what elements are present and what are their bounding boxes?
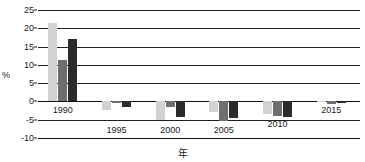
- y-tick-mark-10: [34, 64, 37, 65]
- bar-2010-series-3: [283, 101, 292, 117]
- y-tick-label-15: 15: [24, 42, 34, 52]
- gridline-25: [38, 10, 360, 11]
- bar-2015-series-1: [317, 101, 326, 102]
- y-tick-label-0: 0: [29, 96, 34, 106]
- bar-2015-series-2: [327, 101, 336, 103]
- gridline--10: [38, 138, 360, 139]
- gridline-20: [38, 28, 360, 29]
- y-tick-label-25: 25: [24, 5, 34, 15]
- y-tick-label-20: 20: [24, 23, 34, 33]
- bar-2000-series-1: [156, 101, 165, 119]
- x-tick-label-1990: 1990: [53, 105, 73, 115]
- gridline-5: [38, 83, 360, 84]
- x-tick-label-2000: 2000: [160, 125, 180, 135]
- bar-2010-series-1: [263, 101, 272, 113]
- bar-2005-series-3: [229, 101, 238, 118]
- y-tick-mark-15: [34, 46, 37, 47]
- bar-2005-series-2: [219, 101, 228, 120]
- x-tick-label-2010: 2010: [267, 119, 287, 129]
- bar-2005-series-1: [209, 101, 218, 112]
- x-tick-label-2005: 2005: [214, 125, 234, 135]
- gridline-10: [38, 65, 360, 66]
- bar-chart: % 2520151050-5-10 1990199520002005201020…: [0, 0, 365, 162]
- x-tick-label-2015: 2015: [321, 105, 341, 115]
- gridline-15: [38, 47, 360, 48]
- bar-1990-series-3: [68, 39, 77, 101]
- y-axis-unit-label: %: [2, 70, 10, 80]
- gridline--5: [38, 120, 360, 121]
- bar-2000-series-2: [166, 101, 175, 107]
- bar-2010-series-2: [273, 101, 282, 116]
- plot-area: 2520151050-5-10 199019952000200520102015: [38, 10, 360, 138]
- bar-1990-series-2: [58, 60, 67, 101]
- bar-2015-series-3: [337, 101, 346, 103]
- y-tick-label-5: 5: [29, 78, 34, 88]
- y-tick-label--5: -5: [26, 115, 34, 125]
- bar-1995-series-1: [102, 101, 111, 110]
- y-tick-mark-5: [34, 83, 37, 84]
- bar-1990-series-1: [48, 23, 57, 102]
- x-axis-title: 年: [0, 145, 365, 160]
- y-tick-mark-25: [34, 10, 37, 11]
- bar-1995-series-3: [122, 101, 131, 106]
- x-tick-label-1995: 1995: [106, 125, 126, 135]
- y-tick-mark-0: [34, 101, 37, 102]
- y-tick-mark--5: [34, 119, 37, 120]
- gridline-0: [38, 101, 360, 102]
- y-tick-mark-20: [34, 28, 37, 29]
- y-tick-mark--10: [34, 138, 37, 139]
- y-tick-label-10: 10: [24, 60, 34, 70]
- bar-2000-series-3: [176, 101, 185, 116]
- bar-1995-series-2: [112, 101, 121, 102]
- y-tick-label--10: -10: [21, 133, 34, 143]
